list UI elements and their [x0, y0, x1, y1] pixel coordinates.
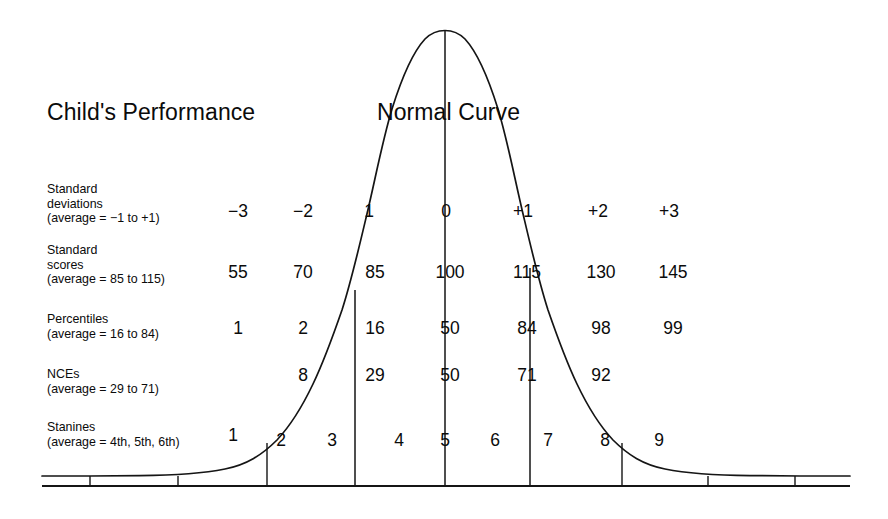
row-label-note: (average = −1 to +1) [47, 211, 160, 226]
cell-stanine-4: 4 [394, 430, 404, 451]
cell-score-100: 100 [435, 262, 464, 283]
cell-stanine-3: 3 [327, 430, 337, 451]
row-label-nces: NCEs (average = 29 to 71) [47, 367, 159, 396]
cell-stanine-5: 5 [440, 430, 450, 451]
page-title-right: Normal Curve [377, 99, 520, 126]
cell-pct-50: 50 [440, 318, 459, 339]
cell-nce-71: 71 [517, 365, 536, 386]
cell-stanine-9: 9 [654, 430, 664, 451]
cell-pct-1: 1 [233, 318, 243, 339]
row-label-line1: Percentiles [47, 312, 159, 327]
cell-pct-16: 16 [365, 318, 384, 339]
cell-sd-minus3: −3 [228, 201, 248, 222]
row-label-stanines: Stanines (average = 4th, 5th, 6th) [47, 420, 180, 449]
cell-pct-99: 99 [663, 318, 682, 339]
cell-sd-zero: 0 [441, 201, 451, 222]
cell-stanine-1: 1 [228, 425, 238, 446]
cell-score-55: 55 [228, 262, 247, 283]
row-label-line1: Standard [47, 182, 160, 197]
cell-stanine-6: 6 [490, 430, 500, 451]
row-label-note: (average = 85 to 115) [47, 272, 165, 287]
row-label-note: (average = 29 to 71) [47, 382, 159, 397]
cell-stanine-7: 7 [543, 430, 553, 451]
row-label-percentiles: Percentiles (average = 16 to 84) [47, 312, 159, 341]
row-label-standard-deviations: Standard deviations (average = −1 to +1) [47, 182, 160, 226]
cell-sd-plus1: +1 [513, 201, 533, 222]
cell-nce-50: 50 [440, 365, 459, 386]
cell-pct-84: 84 [517, 318, 536, 339]
cell-stanine-8: 8 [600, 430, 610, 451]
row-label-line1: Stanines [47, 420, 180, 435]
cell-score-145: 145 [658, 262, 687, 283]
cell-score-70: 70 [293, 262, 312, 283]
row-label-line2: scores [47, 258, 165, 273]
row-label-note: (average = 16 to 84) [47, 327, 159, 342]
cell-nce-8: 8 [298, 365, 308, 386]
normal-curve-figure: Child's Performance Normal Curve Standar… [0, 0, 888, 519]
row-label-note: (average = 4th, 5th, 6th) [47, 435, 180, 450]
cell-sd-minus2: −2 [293, 201, 313, 222]
cell-stanine-2: 2 [276, 430, 286, 451]
page-title-left: Child's Performance [47, 99, 255, 126]
cell-pct-98: 98 [591, 318, 610, 339]
cell-score-115: 115 [513, 262, 541, 283]
cell-sd-plus2: +2 [588, 201, 608, 222]
cell-nce-29: 29 [365, 365, 384, 386]
cell-sd-minus1: 1 [364, 201, 374, 222]
row-label-line1: NCEs [47, 367, 159, 382]
row-label-line2: deviations [47, 197, 160, 212]
cell-sd-plus3: +3 [659, 201, 679, 222]
cell-score-85: 85 [365, 262, 384, 283]
row-label-standard-scores: Standard scores (average = 85 to 115) [47, 243, 165, 287]
cell-nce-92: 92 [591, 365, 610, 386]
row-label-line1: Standard [47, 243, 165, 258]
cell-score-130: 130 [586, 262, 615, 283]
cell-pct-2: 2 [298, 318, 308, 339]
